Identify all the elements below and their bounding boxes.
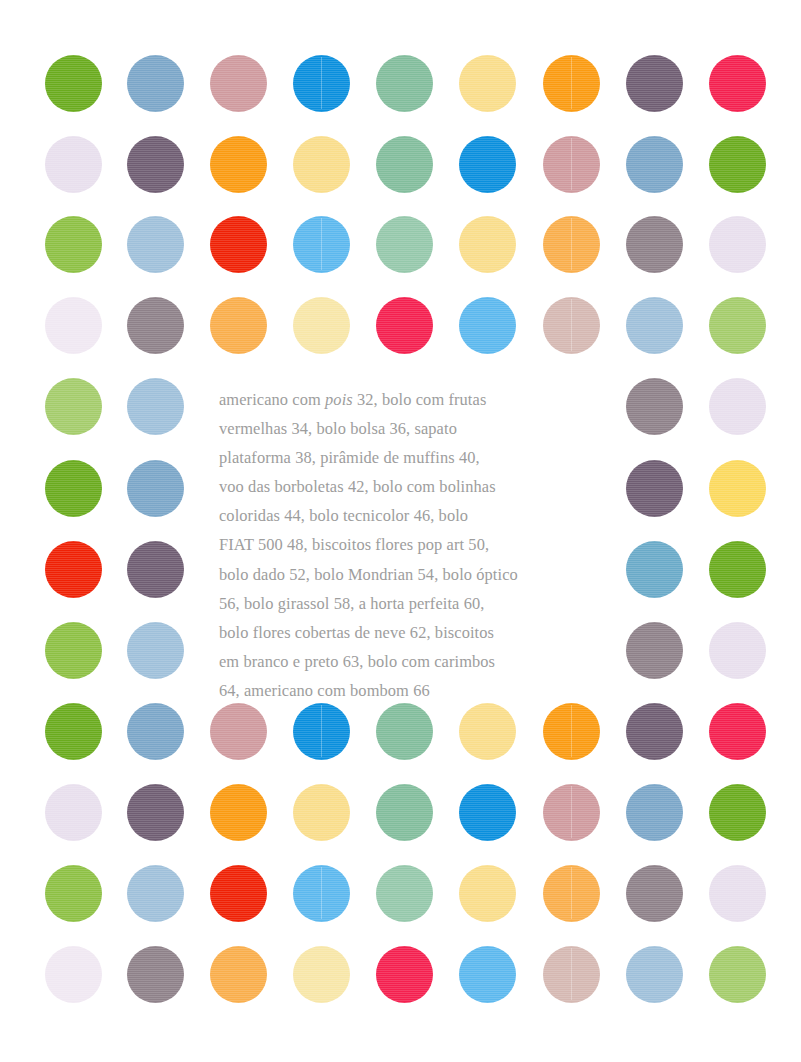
dot-r1-c7 — [543, 55, 600, 112]
dot-r9-c8 — [626, 703, 683, 760]
dot-r11-c1 — [45, 865, 102, 922]
dot-r4-c8 — [626, 297, 683, 354]
dot-r4-c1 — [45, 297, 102, 354]
dot-r9-c6 — [459, 703, 516, 760]
dot-r11-c5 — [376, 865, 433, 922]
dot-r7-c1 — [45, 541, 102, 598]
page-canvas: americano com pois 32, bolo com frutasve… — [0, 0, 801, 1062]
dot-r2-c4 — [293, 136, 350, 193]
dot-r3-c8 — [626, 216, 683, 273]
contents-line: 64, americano com bombom 66 — [219, 676, 615, 705]
dot-r2-c7 — [543, 136, 600, 193]
dot-r12-c5 — [376, 946, 433, 1003]
dot-r9-c2 — [127, 703, 184, 760]
dot-r10-c4 — [293, 784, 350, 841]
contents-line: voo das borboletas 42, bolo com bolinhas — [219, 472, 615, 501]
dot-r9-c9 — [709, 703, 766, 760]
dot-r4-c4 — [293, 297, 350, 354]
dot-r12-c7 — [543, 946, 600, 1003]
dot-r2-c9 — [709, 136, 766, 193]
dot-r3-c4 — [293, 216, 350, 273]
dot-r11-c4 — [293, 865, 350, 922]
dot-r3-c3 — [210, 216, 267, 273]
dot-r5-c1 — [45, 378, 102, 435]
contents-run: voo das borboletas 42, bolo com bolinhas — [219, 477, 496, 496]
contents-run: bolo flores cobertas de neve 62, biscoit… — [219, 623, 494, 642]
contents-line: em branco e preto 63, bolo com carimbos — [219, 647, 615, 676]
dot-r10-c8 — [626, 784, 683, 841]
dot-r6-c9 — [709, 460, 766, 517]
contents-line: vermelhas 34, bolo bolsa 36, sapato — [219, 414, 615, 443]
dot-r12-c9 — [709, 946, 766, 1003]
dot-r2-c2 — [127, 136, 184, 193]
contents-run: americano com — [219, 390, 325, 409]
contents-line: FIAT 500 48, biscoitos flores pop art 50… — [219, 530, 615, 559]
dot-r1-c1 — [45, 55, 102, 112]
contents-run: vermelhas 34, bolo bolsa 36, sapato — [219, 419, 457, 438]
dot-r2-c6 — [459, 136, 516, 193]
dot-r12-c2 — [127, 946, 184, 1003]
dot-r2-c5 — [376, 136, 433, 193]
dot-r5-c9 — [709, 378, 766, 435]
dot-r10-c3 — [210, 784, 267, 841]
contents-run: bolo dado 52, bolo Mondrian 54, bolo ópt… — [219, 565, 518, 584]
dot-r9-c4 — [293, 703, 350, 760]
contents-run: coloridas 44, bolo tecnicolor 46, bolo — [219, 506, 468, 525]
dot-r7-c8 — [626, 541, 683, 598]
dot-r3-c2 — [127, 216, 184, 273]
dot-r1-c9 — [709, 55, 766, 112]
dot-r1-c6 — [459, 55, 516, 112]
dot-r4-c7 — [543, 297, 600, 354]
contents-line: bolo flores cobertas de neve 62, biscoit… — [219, 618, 615, 647]
dot-r2-c8 — [626, 136, 683, 193]
dot-r5-c8 — [626, 378, 683, 435]
contents-run: FIAT 500 48, biscoitos flores pop art 50… — [219, 535, 489, 554]
dot-r11-c9 — [709, 865, 766, 922]
dot-r9-c7 — [543, 703, 600, 760]
contents-run: em branco e preto 63, bolo com carimbos — [219, 652, 495, 671]
dot-r4-c5 — [376, 297, 433, 354]
contents-line: plataforma 38, pirâmide de muffins 40, — [219, 443, 615, 472]
dot-r9-c3 — [210, 703, 267, 760]
dot-r12-c8 — [626, 946, 683, 1003]
dot-r12-c6 — [459, 946, 516, 1003]
contents-run: plataforma 38, pirâmide de muffins 40, — [219, 448, 480, 467]
dot-r1-c4 — [293, 55, 350, 112]
dot-r12-c1 — [45, 946, 102, 1003]
contents-run: 56, bolo girassol 58, a horta perfeita 6… — [219, 594, 484, 613]
dot-r11-c6 — [459, 865, 516, 922]
contents-run: 32, bolo com frutas — [353, 390, 487, 409]
dot-r11-c3 — [210, 865, 267, 922]
dot-r1-c5 — [376, 55, 433, 112]
dot-r10-c2 — [127, 784, 184, 841]
dot-r11-c8 — [626, 865, 683, 922]
dot-r10-c6 — [459, 784, 516, 841]
contents-line: americano com pois 32, bolo com frutas — [219, 385, 615, 414]
dot-r4-c3 — [210, 297, 267, 354]
dot-r2-c1 — [45, 136, 102, 193]
dot-r3-c1 — [45, 216, 102, 273]
dot-r2-c3 — [210, 136, 267, 193]
dot-r6-c2 — [127, 460, 184, 517]
dot-r3-c6 — [459, 216, 516, 273]
dot-r8-c9 — [709, 622, 766, 679]
contents-run: 64, americano com bombom 66 — [219, 681, 430, 700]
dot-r10-c9 — [709, 784, 766, 841]
dot-r10-c1 — [45, 784, 102, 841]
dot-r9-c1 — [45, 703, 102, 760]
dot-r10-c5 — [376, 784, 433, 841]
dot-r3-c9 — [709, 216, 766, 273]
dot-r8-c2 — [127, 622, 184, 679]
dot-r3-c5 — [376, 216, 433, 273]
dot-r6-c8 — [626, 460, 683, 517]
dot-r7-c9 — [709, 541, 766, 598]
contents-line: 56, bolo girassol 58, a horta perfeita 6… — [219, 589, 615, 618]
dot-r11-c2 — [127, 865, 184, 922]
dot-r6-c1 — [45, 460, 102, 517]
dot-r8-c8 — [626, 622, 683, 679]
dot-r10-c7 — [543, 784, 600, 841]
dot-r4-c6 — [459, 297, 516, 354]
contents-line: bolo dado 52, bolo Mondrian 54, bolo ópt… — [219, 560, 615, 589]
dot-r11-c7 — [543, 865, 600, 922]
contents-line: coloridas 44, bolo tecnicolor 46, bolo — [219, 501, 615, 530]
